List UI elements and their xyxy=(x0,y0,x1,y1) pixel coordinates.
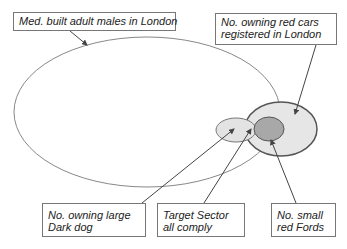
red-cars-label: No. owning red cars registered in London xyxy=(215,13,337,45)
dark-dog-text-2: Dark dog xyxy=(48,221,140,233)
dark-dog-text-1: No. owning large xyxy=(48,209,140,221)
target-text-1: Target Sector xyxy=(163,209,239,221)
red-fords-set xyxy=(254,117,284,141)
target-text-2: all comply xyxy=(163,221,239,233)
dark-dog-label: No. owning large Dark dog xyxy=(42,203,146,237)
red-fords-label: No. small red Fords xyxy=(271,203,336,237)
target-sector-label: Target Sector all comply xyxy=(157,203,245,237)
adult-males-leader xyxy=(70,31,87,45)
red-fords-text-1: No. small xyxy=(277,209,330,221)
red-cars-text-2: registered in London xyxy=(221,28,331,40)
adult-males-set xyxy=(14,37,280,187)
red-fords-text-2: red Fords xyxy=(277,221,330,233)
adult-males-label: Med. built adult males in London xyxy=(13,12,176,31)
dark-dog-leader xyxy=(142,129,234,203)
red-cars-text-1: No. owning red cars xyxy=(221,16,331,28)
red-cars-leader xyxy=(295,45,316,114)
adult-males-text: Med. built adult males in London xyxy=(19,15,177,27)
